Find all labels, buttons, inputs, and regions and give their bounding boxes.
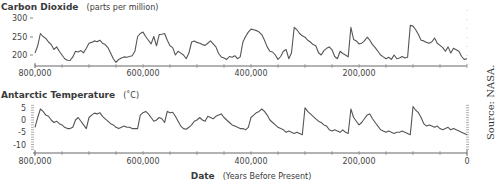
temp-ytick-0: 0: [21, 116, 26, 125]
temp-xtick-800000: 800,000: [18, 157, 51, 166]
temp-xtick-400000: 400,000: [234, 157, 267, 166]
co2-ytick-200: 200: [12, 51, 27, 60]
temp-ytick-minus5: -5: [18, 128, 26, 137]
co2-ytick-250: 250: [12, 33, 27, 42]
co2-xtick-600000: 600,000: [126, 69, 159, 78]
temp-y-axis: 5 0 -5 -10: [13, 104, 469, 150]
co2-y-axis: 300 250 200: [12, 14, 33, 60]
x-axis-label: Date (Years Before Present): [191, 164, 312, 183]
temp-ytick-minus10: -10: [13, 141, 26, 150]
temp-title: Antarctic Temperature (˚C): [1, 83, 139, 102]
temp-ytick-5: 5: [21, 104, 26, 113]
temp-x-axis: 800,000 600,000 400,000 200,000 0: [18, 150, 469, 166]
co2-xtick-400000: 400,000: [234, 69, 267, 78]
source-credit: Source: NASA.: [485, 65, 496, 140]
co2-xtick-200000: 200,000: [342, 69, 375, 78]
co2-title: Carbon Dioxide (parts per million): [1, 0, 158, 14]
temp-xtick-600000: 600,000: [126, 157, 159, 166]
temp-xtick-0: 0: [464, 157, 469, 166]
co2-xtick-800000: 800,000: [18, 69, 51, 78]
chart-figure: Carbon Dioxide (parts per million) 300 2…: [0, 0, 502, 192]
co2-ytick-300: 300: [12, 14, 27, 23]
co2-data-line: [35, 25, 467, 62]
temp-xtick-200000: 200,000: [342, 157, 375, 166]
temp-data-line: [35, 107, 467, 135]
